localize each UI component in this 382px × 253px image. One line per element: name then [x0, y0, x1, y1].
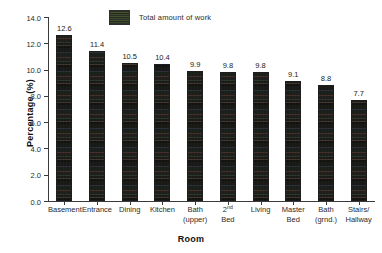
- bar-chart: Total amount of work Percentage (%) Room…: [0, 0, 382, 253]
- x-category-label: Stairs/Hallway: [342, 205, 375, 224]
- bar-value-label: 8.8: [321, 74, 331, 83]
- x-category-label-line2: (grnd.): [310, 215, 343, 225]
- bar: 10.5: [122, 63, 138, 201]
- bar-value-label: 11.4: [90, 40, 104, 49]
- y-tick-label: 4.0: [31, 144, 41, 153]
- x-category-label: Entrance: [81, 205, 114, 215]
- bar: 10.4: [154, 64, 170, 201]
- bar: 8.8: [318, 85, 334, 201]
- x-category-label: Kitchen: [146, 205, 179, 215]
- bar: 7.7: [351, 100, 367, 201]
- x-category-label-line2: Bed: [277, 215, 310, 225]
- bar: 9.8: [253, 72, 269, 201]
- bar-fill: [351, 100, 367, 201]
- bar-series-total-amount-of-work: 12.611.410.510.49.99.89.89.18.87.7: [48, 17, 375, 201]
- bar-fill: [220, 72, 236, 201]
- x-category-label: Dining: [113, 205, 146, 215]
- bar-fill: [253, 72, 269, 201]
- x-category-label-line1: Entrance: [82, 205, 112, 214]
- bar-fill: [89, 51, 105, 201]
- bar-value-label: 9.8: [255, 61, 265, 70]
- y-tick-label: 10.0: [26, 66, 41, 75]
- plot-area: 0.02.04.06.08.010.012.014.0 12.611.410.5…: [48, 17, 375, 202]
- x-category-label-line1: Kitchen: [150, 205, 175, 214]
- bar-value-label: 12.6: [57, 24, 72, 33]
- x-category-label-line1: Bath: [187, 205, 202, 214]
- x-category-label: Bath(grnd.): [310, 205, 343, 224]
- y-tick-label: 14.0: [26, 13, 41, 22]
- bar-fill: [187, 71, 203, 201]
- y-tick-label: 0.0: [31, 197, 41, 206]
- y-tick-label: 8.0: [31, 92, 41, 101]
- x-category-label: MasterBed: [277, 205, 310, 224]
- x-category-label-line2: Bed: [212, 215, 245, 225]
- x-category-label: 2ndBed: [212, 205, 245, 224]
- bar-fill: [285, 81, 301, 201]
- bar-value-label: 9.9: [190, 60, 200, 69]
- y-tick-label: 2.0: [31, 171, 41, 180]
- bar-fill: [122, 63, 138, 201]
- bar-fill: [154, 64, 170, 201]
- bar: 9.8: [220, 72, 236, 201]
- bar: 11.4: [89, 51, 105, 201]
- bar: 9.9: [187, 71, 203, 201]
- x-category-label-line1: Bath: [318, 205, 333, 214]
- y-tick: 0.0: [44, 201, 48, 202]
- x-category-label-line1: Basement: [48, 205, 82, 214]
- x-category-label-line1: Dining: [119, 205, 140, 214]
- x-category-label: Living: [244, 205, 277, 215]
- bar-value-label: 7.7: [353, 89, 363, 98]
- x-category-label: Bath(upper): [179, 205, 212, 224]
- bar-value-label: 9.8: [223, 61, 233, 70]
- x-category-label-line1: Stairs/: [348, 205, 369, 214]
- bar-fill: [56, 35, 72, 201]
- y-tick-label: 12.0: [26, 39, 41, 48]
- x-axis-title: Room: [0, 234, 382, 244]
- bar-value-label: 10.5: [122, 52, 137, 61]
- x-category-label-line1: Master: [282, 205, 305, 214]
- x-axis-category-labels: BasementEntranceDiningKitchenBath(upper)…: [48, 205, 375, 233]
- x-category-label-superscript: nd: [227, 204, 233, 210]
- bar: 9.1: [285, 81, 301, 201]
- x-category-label: Basement: [48, 205, 81, 215]
- x-category-label-line2: (upper): [179, 215, 212, 225]
- bar-fill: [318, 85, 334, 201]
- x-category-label-line1: Living: [251, 205, 271, 214]
- bar-value-label: 9.1: [288, 70, 298, 79]
- x-category-label-line2: Hallway: [342, 215, 375, 225]
- y-tick-label: 6.0: [31, 118, 41, 127]
- bar: 12.6: [56, 35, 72, 201]
- bar-value-label: 10.4: [155, 53, 170, 62]
